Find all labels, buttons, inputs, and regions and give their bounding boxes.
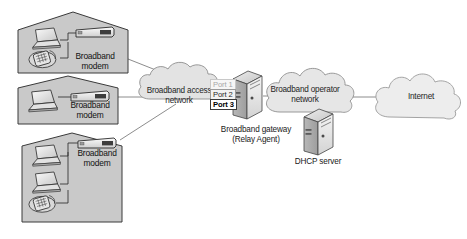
cloud-internet-line1: Internet: [408, 92, 434, 101]
modem-label-line1: Broadband: [75, 51, 114, 61]
cloud-operator-line2: network: [291, 95, 318, 104]
broadband-gateway-label: Broadband gateway (Relay Agent): [196, 125, 316, 144]
modem-label-line2: modem: [82, 61, 109, 71]
house-top-modem-label: Broadband modem: [60, 52, 130, 71]
modem-label-line1: Broadband: [70, 100, 109, 110]
house-bottom-modem-label: Broadband modem: [62, 149, 132, 168]
cloud-internet-label: Internet: [385, 92, 457, 102]
cloud-operator-label: Broadband operator network: [259, 85, 351, 104]
modem-label-line1: Broadband: [77, 148, 116, 158]
gateway-label-line1: Broadband gateway: [221, 125, 291, 134]
network-diagram-canvas: Broadband modem Broadband modem Broadban…: [0, 0, 467, 239]
dhcp-server-label: DHCP server: [281, 157, 355, 167]
gateway-label-line2: (Relay Agent): [232, 135, 280, 144]
house-middle-modem-label: Broadband modem: [55, 101, 125, 120]
cloud-access-line1: Broadband access: [147, 86, 212, 95]
port-label-3[interactable]: Port 3: [210, 99, 237, 110]
broadband-gateway-icon: [233, 71, 262, 119]
cloud-operator-line1: Broadband operator: [270, 85, 339, 94]
modem-label-line2: modem: [77, 110, 104, 120]
cloud-access-line2: network: [165, 96, 192, 105]
house-bottom-shape: [22, 133, 122, 222]
modem-label-line2: modem: [84, 158, 111, 168]
